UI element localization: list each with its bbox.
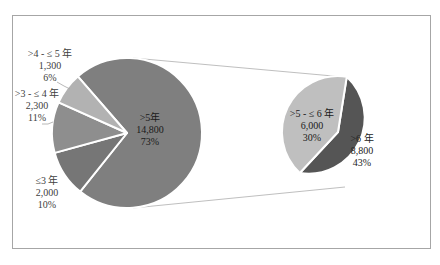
- label-5to6: >5 - ≤ 6 年 6,000 30%: [284, 108, 340, 144]
- label-3to4: >3 - ≤ 4 年 2,300 11%: [12, 88, 62, 124]
- label-le3-name: ≤3 年: [22, 175, 72, 187]
- label-5to6-pct: 30%: [284, 132, 340, 144]
- label-gt6-pct: 43%: [342, 157, 382, 169]
- label-4to5-pct: 6%: [20, 72, 80, 84]
- label-gt6: >6 年 8,800 43%: [342, 133, 382, 169]
- label-gt5-name: >5年: [130, 112, 170, 124]
- label-4to5: >4 - ≤ 5 年 1,300 6%: [20, 48, 80, 84]
- label-5to6-value: 6,000: [284, 120, 340, 132]
- label-gt5-value: 14,800: [130, 124, 170, 136]
- label-gt5-pct: 73%: [130, 136, 170, 148]
- label-4to5-value: 1,300: [20, 60, 80, 72]
- label-gt6-name: >6 年: [342, 133, 382, 145]
- label-4to5-name: >4 - ≤ 5 年: [20, 48, 80, 60]
- label-le3-pct: 10%: [22, 199, 72, 211]
- label-le3: ≤3 年 2,000 10%: [22, 175, 72, 211]
- label-5to6-name: >5 - ≤ 6 年: [284, 108, 340, 120]
- label-gt6-value: 8,800: [342, 145, 382, 157]
- label-3to4-name: >3 - ≤ 4 年: [12, 88, 62, 100]
- label-gt5: >5年 14,800 73%: [130, 112, 170, 148]
- label-3to4-pct: 11%: [12, 112, 62, 124]
- label-3to4-value: 2,300: [12, 100, 62, 112]
- label-le3-value: 2,000: [22, 187, 72, 199]
